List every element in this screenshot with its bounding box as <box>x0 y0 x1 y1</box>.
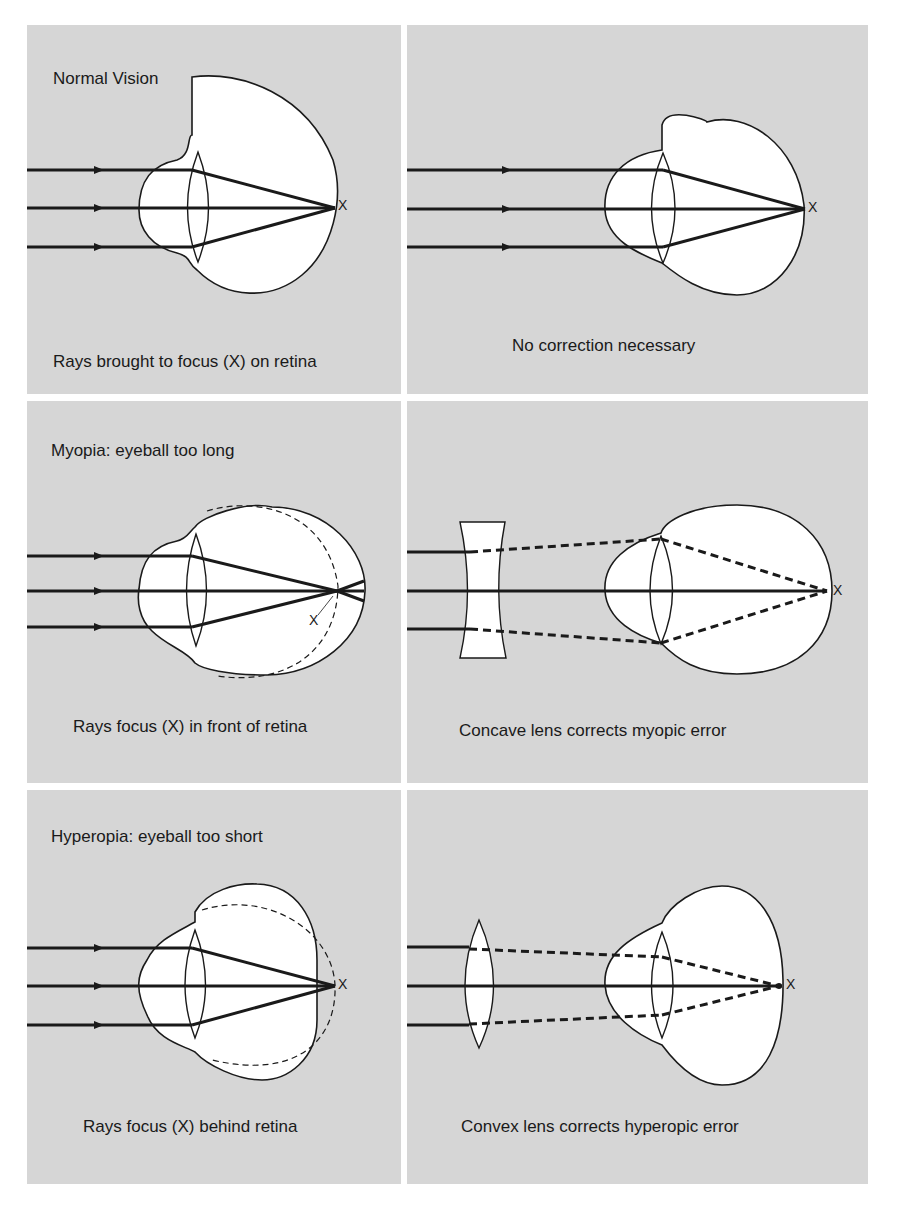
focus-label: X <box>338 976 347 992</box>
panel-caption: Rays brought to focus (X) on retina <box>53 352 317 372</box>
focus-label: X <box>309 612 318 628</box>
eyeball-outline <box>605 115 804 295</box>
focus-label: X <box>833 582 842 598</box>
panel-title: Normal Vision <box>53 69 159 89</box>
panel-normal-vision: Normal Vision X Rays brought to focus (X… <box>27 25 401 394</box>
panel-caption: Rays focus (X) in front of retina <box>73 717 307 737</box>
panel-title: Hyperopia: eyeball too short <box>51 827 263 847</box>
panel-normal-correction: X No correction necessary <box>407 25 868 394</box>
panel-myopia-correction: X Concave lens corrects myopic error <box>407 401 868 783</box>
convex-corrective-lens <box>465 920 494 1048</box>
panel-myopia: Myopia: eyeball too long X Rays focus (X… <box>27 401 401 783</box>
panel-caption: Concave lens corrects myopic error <box>459 721 726 741</box>
panel-title: Myopia: eyeball too long <box>51 441 234 461</box>
eyeball-outline <box>139 76 337 293</box>
panel-caption: Rays focus (X) behind retina <box>83 1117 298 1137</box>
eyeball-outline <box>139 884 317 1080</box>
panel-hyperopia-correction: X Convex lens corrects hyperopic error <box>407 790 868 1184</box>
focus-label: X <box>786 976 795 992</box>
focus-label: X <box>808 199 817 215</box>
panel-caption: No correction necessary <box>512 336 695 356</box>
panel-hyperopia: Hyperopia: eyeball too short X Rays focu… <box>27 790 401 1184</box>
focus-label: X <box>338 197 347 213</box>
focal-point <box>776 983 782 989</box>
panel-caption: Convex lens corrects hyperopic error <box>461 1117 739 1137</box>
